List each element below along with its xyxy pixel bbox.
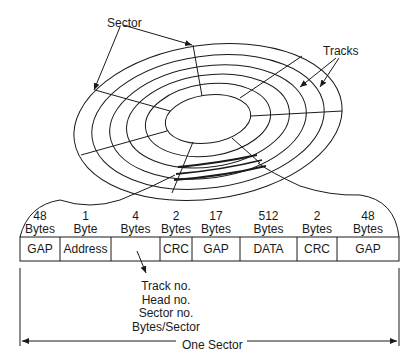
field-size-gap-1: 48Bytes	[20, 210, 60, 236]
field-address: Address	[60, 237, 111, 261]
field-gap-3: GAP	[337, 237, 399, 261]
tracks-label: Tracks	[323, 45, 359, 58]
sector-lines	[81, 45, 342, 193]
field-data: DATA	[240, 237, 297, 261]
field-size-crc-1: 2Bytes	[160, 210, 192, 236]
field-size-gap-3: 48Bytes	[337, 210, 399, 236]
field-size-crc-2: 2Bytes	[297, 210, 337, 236]
id-head-no: Head no.	[120, 294, 212, 308]
field-crc-2: CRC	[297, 237, 337, 261]
sector-label: Sector	[107, 17, 142, 30]
field-id	[111, 237, 160, 261]
field-size-address: 1Byte	[60, 210, 111, 236]
field-gap-1: GAP	[20, 237, 60, 261]
id-track-no: Track no.	[120, 280, 212, 294]
field-gap-2: GAP	[192, 237, 240, 261]
id-sector-no: Sector no.	[120, 307, 212, 321]
field-size-gap-2: 17Bytes	[192, 210, 240, 236]
field-size-id: 4Bytes	[111, 210, 160, 236]
id-bytes-per-sector: Bytes/Sector	[120, 321, 212, 335]
field-size-data: 512Bytes	[240, 210, 297, 236]
one-sector-label: One Sector	[178, 339, 247, 352]
id-field-contents: Track no. Head no. Sector no. Bytes/Sect…	[120, 280, 212, 334]
field-crc-1: CRC	[160, 237, 192, 261]
